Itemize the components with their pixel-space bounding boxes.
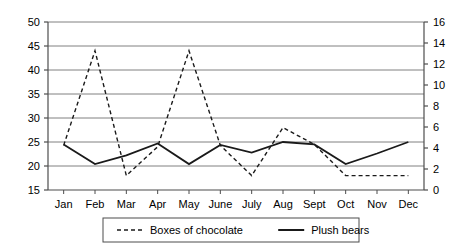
- right-axis-tick-label: 8: [433, 100, 439, 112]
- left-axis-tick-label: 50: [28, 16, 40, 28]
- right-axis-tick-label: 6: [433, 121, 439, 133]
- left-axis-tick-label: 20: [28, 160, 40, 172]
- x-axis-tick-label: Dec: [399, 198, 419, 210]
- x-axis-tick-label: June: [208, 198, 232, 210]
- chart-container: 15202530354045500246810121416JanFebMarAp…: [0, 0, 462, 252]
- x-axis-tick-label: May: [179, 198, 200, 210]
- right-axis-tick-label: 2: [433, 163, 439, 175]
- x-axis-tick-label: Oct: [337, 198, 354, 210]
- x-axis: JanFebMarAprMayJuneJulyAugSeptOctNovDec: [48, 190, 424, 210]
- legend-label: Boxes of chocolate: [150, 224, 243, 236]
- left-axis: 1520253035404550: [28, 16, 48, 196]
- x-axis-tick-label: Apr: [149, 198, 166, 210]
- right-axis-tick-label: 0: [433, 184, 439, 196]
- left-axis-tick-label: 35: [28, 88, 40, 100]
- right-axis-tick-label: 14: [433, 37, 445, 49]
- left-axis-tick-label: 25: [28, 136, 40, 148]
- x-axis-tick-label: Sept: [303, 198, 326, 210]
- x-axis-tick-label: Nov: [367, 198, 387, 210]
- x-axis-tick-label: Jan: [55, 198, 73, 210]
- legend: Boxes of chocolatePlush bears: [103, 218, 370, 242]
- line-chart: 15202530354045500246810121416JanFebMarAp…: [0, 0, 462, 252]
- right-axis-tick-label: 16: [433, 16, 445, 28]
- left-axis-tick-label: 40: [28, 64, 40, 76]
- left-axis-tick-label: 45: [28, 40, 40, 52]
- right-axis: 0246810121416: [424, 16, 445, 196]
- x-axis-tick-label: Aug: [273, 198, 293, 210]
- right-axis-tick-label: 10: [433, 79, 445, 91]
- left-axis-tick-label: 30: [28, 112, 40, 124]
- right-axis-tick-label: 12: [433, 58, 445, 70]
- x-axis-tick-label: Mar: [117, 198, 136, 210]
- x-axis-tick-label: July: [242, 198, 262, 210]
- gridlines: [48, 22, 424, 166]
- x-axis-tick-label: Feb: [86, 198, 105, 210]
- legend-label: Plush bears: [311, 224, 370, 236]
- left-axis-tick-label: 15: [28, 184, 40, 196]
- right-axis-tick-label: 4: [433, 142, 439, 154]
